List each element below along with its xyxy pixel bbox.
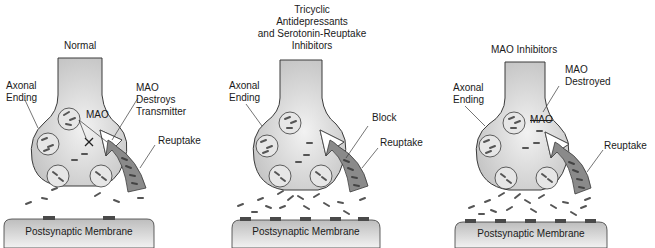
panel-normal: Normal Axonal Ending MAO MAO Destroys Tr… — [0, 0, 220, 248]
panel-title: MAO Inhibitors — [491, 44, 557, 56]
panel-title: Normal — [64, 40, 96, 52]
reuptake-label: Reuptake — [604, 140, 647, 152]
mao-destroys-annotation: MAO Destroys Transmitter — [136, 82, 186, 118]
axonal-ending-label: Axonal Ending — [6, 80, 37, 104]
receptor — [43, 216, 55, 220]
reuptake-label: Reuptake — [380, 137, 423, 149]
mao-label: MAO — [86, 109, 109, 121]
panel-mao-inhibitors: MAO Inhibitors Axonal Ending MAO MAO Des… — [435, 0, 655, 248]
membrane-label: Postsynaptic Membrane — [232, 226, 380, 237]
receptor — [103, 216, 115, 220]
axonal-ending-label: Axonal Ending — [453, 82, 484, 106]
block-annotation: Block — [372, 112, 396, 124]
mao-destroyed-annotation: MAO Destroyed — [565, 64, 611, 88]
panel-reuptake-inhibitors: Tricyclic Antidepressants and Serotonin-… — [220, 0, 440, 248]
synapse-diagram-normal — [0, 0, 220, 248]
mao-label-destroyed: MAO — [530, 114, 553, 126]
reuptake-label: Reuptake — [158, 135, 201, 147]
panel-title: Tricyclic Antidepressants and Serotonin-… — [242, 4, 382, 52]
membrane-label: Postsynaptic Membrane — [4, 226, 154, 237]
axonal-ending-label: Axonal Ending — [229, 80, 260, 104]
membrane-label: Postsynaptic Membrane — [455, 228, 607, 239]
